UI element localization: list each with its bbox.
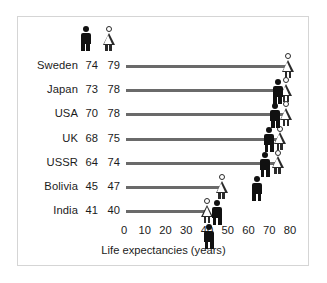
male-body — [252, 183, 262, 194]
female-head — [283, 77, 289, 83]
row-connector-line — [126, 113, 286, 116]
female-head — [219, 174, 225, 180]
row-female-value: 74 — [102, 156, 120, 168]
row-connector-line — [126, 138, 280, 141]
x-axis-title: Life expectancies (years) — [0, 244, 327, 256]
female-leg-left — [218, 193, 220, 199]
row-country-label: Japan — [18, 83, 78, 95]
row-connector-line — [126, 162, 278, 165]
male-leg-right — [258, 194, 262, 201]
female-dress-inner — [281, 110, 289, 119]
male-body — [264, 134, 274, 145]
row-country-label: USSR — [18, 156, 78, 168]
female-leg-left — [274, 168, 276, 174]
female-dress-inner — [203, 207, 211, 216]
row-male-value: 68 — [80, 132, 98, 144]
male-figure-icon — [204, 224, 215, 250]
x-axis-tick-label: 60 — [239, 224, 259, 236]
female-leg-right — [287, 120, 289, 126]
male-leg-right — [270, 145, 274, 152]
row-female-value: 78 — [102, 83, 120, 95]
male-body — [260, 159, 270, 170]
row-country-label: USA — [18, 107, 78, 119]
row-female-value: 75 — [102, 132, 120, 144]
male-head — [266, 127, 272, 133]
female-figure-icon — [271, 150, 284, 176]
chart-row: Sweden7479 — [0, 55, 327, 79]
male-head — [254, 176, 260, 182]
male-leg-left — [205, 242, 209, 249]
female-head — [204, 198, 210, 204]
row-female-value: 47 — [102, 180, 120, 192]
row-male-value: 45 — [80, 180, 98, 192]
male-leg-right — [266, 170, 270, 177]
x-axis-tick-label: 70 — [259, 224, 279, 236]
female-figure-icon — [215, 174, 228, 200]
male-body — [204, 231, 214, 242]
male-body — [270, 110, 280, 121]
male-figure-icon — [270, 103, 281, 129]
row-connector-line — [126, 210, 209, 213]
row-female-value: 78 — [102, 107, 120, 119]
x-axis-tick-label: 30 — [176, 224, 196, 236]
row-female-value: 40 — [102, 204, 120, 216]
chart-figure: Sweden7479Japan7378USA7078UK6875USSR6474… — [0, 0, 327, 283]
female-figure-icon — [279, 101, 292, 127]
male-figure-icon — [260, 152, 271, 178]
male-head — [272, 103, 278, 109]
male-head — [214, 200, 220, 206]
female-dress-inner — [275, 134, 283, 143]
male-leg-right — [218, 218, 222, 225]
male-head — [275, 79, 281, 85]
row-male-value: 41 — [80, 204, 98, 216]
row-male-value: 70 — [80, 107, 98, 119]
row-connector-line — [126, 65, 288, 68]
female-dress-inner — [283, 62, 291, 71]
male-head — [206, 224, 212, 230]
x-axis-tick-label: 80 — [280, 224, 300, 236]
x-axis-tick-label: 20 — [156, 224, 176, 236]
row-country-label: Bolivia — [18, 180, 78, 192]
female-head — [283, 101, 289, 107]
female-head — [275, 150, 281, 156]
male-body — [273, 86, 283, 97]
row-male-value: 74 — [80, 59, 98, 71]
row-country-label: UK — [18, 132, 78, 144]
x-axis-tick-label: 10 — [135, 224, 155, 236]
row-male-value: 64 — [80, 156, 98, 168]
row-connector-line — [126, 186, 222, 189]
chart-plot-area: Sweden7479Japan7378USA7078UK6875USSR6474… — [0, 0, 327, 283]
female-figure-icon — [281, 53, 294, 79]
row-connector-line — [126, 89, 286, 92]
male-figure-icon — [272, 79, 283, 105]
female-head — [285, 53, 291, 59]
row-male-value: 73 — [80, 83, 98, 95]
male-figure-icon — [251, 176, 262, 202]
female-leg-right — [208, 217, 210, 223]
female-leg-left — [204, 217, 206, 223]
female-dress-inner — [273, 158, 281, 167]
row-country-label: India — [18, 204, 78, 216]
male-figure-icon — [264, 127, 275, 153]
male-body — [212, 207, 222, 218]
male-leg-left — [252, 194, 256, 201]
female-leg-right — [222, 193, 224, 199]
x-axis-tick-label: 0 — [114, 224, 134, 236]
male-leg-right — [210, 242, 214, 249]
row-country-label: Sweden — [18, 59, 78, 71]
female-leg-right — [278, 168, 280, 174]
chart-row: Bolivia4547 — [0, 176, 327, 200]
male-leg-right — [276, 121, 280, 128]
female-dress-inner — [217, 183, 225, 192]
female-figure-icon — [273, 126, 286, 152]
male-figure-icon — [212, 200, 223, 226]
chart-row: India4140 — [0, 200, 327, 224]
chart-row: UK6875 — [0, 128, 327, 152]
chart-row: USSR6474 — [0, 152, 327, 176]
row-female-value: 79 — [102, 59, 120, 71]
male-head — [262, 152, 268, 158]
